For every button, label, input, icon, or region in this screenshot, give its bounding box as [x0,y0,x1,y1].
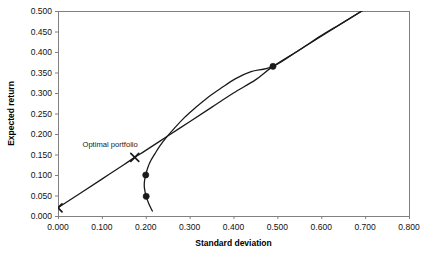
data-point-asset-low-risk [143,193,149,199]
x-tick-label: 0.600 [311,222,333,232]
y-tick-label: 0.150 [31,150,53,160]
x-tick-label: 0.400 [223,222,245,232]
x-tick-label: 0.800 [398,222,420,232]
chart-canvas: 0.0000.0500.1000.1500.2000.2500.3000.350… [0,0,427,261]
data-point-asset-mid-risk [143,172,149,178]
y-axis-title: Expected return [6,81,16,146]
y-tick-label: 0.350 [31,68,53,78]
plot-border [59,12,410,217]
series-group [54,9,365,212]
x-tick-label: 0.700 [354,222,376,232]
x-tick-label: 0.000 [47,222,69,232]
y-tick-label: 0.100 [31,170,53,180]
y-tick-label: 0.250 [31,109,53,119]
y-tick-label: 0.300 [31,88,53,98]
series-line [58,9,365,208]
y-tick-label: 0.450 [31,27,53,37]
series-line [144,9,365,211]
y-tick-label: 0.050 [31,191,53,201]
y-tick-label: 0.000 [31,211,53,221]
y-tick-label: 0.500 [31,6,53,16]
x-tick-label: 0.200 [135,222,157,232]
x-tick-label: 0.100 [91,222,113,232]
y-tick-label: 0.400 [31,47,53,57]
data-point-asset-high-risk [270,63,276,69]
y-tick-label: 0.200 [31,129,53,139]
efficient-frontier-chart: 0.0000.0500.1000.1500.2000.2500.3000.350… [0,0,427,261]
x-axis-title: Standard deviation [195,238,272,248]
x-tick-label: 0.500 [267,222,289,232]
optimal-portfolio-label: Optimal portfolio [82,140,137,149]
x-tick-label: 0.300 [179,222,201,232]
data-point-optimal-portfolio [131,153,139,161]
